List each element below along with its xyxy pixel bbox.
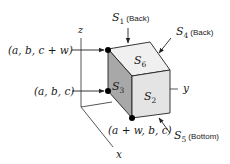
label-top-left-vertex: (a, b, c + w) <box>8 44 73 56</box>
callout-s5: S5(Bottom) <box>174 129 219 144</box>
callout-s4: S4(Back) <box>176 25 214 40</box>
label-bottom-left-vertex: (a, b, c) <box>34 85 74 97</box>
callout-s1: S1(Back) <box>112 11 150 26</box>
vertex-dot-bottom-left <box>105 88 111 94</box>
label-front-bottom-vertex: (a + w, b, c) <box>108 124 172 136</box>
vertex-dot-front-bottom <box>129 115 135 121</box>
cube-diagram: S6 S3 S2 S1(Back) S4(Back) S5(Bottom) (a… <box>0 0 230 164</box>
arrow-s4 <box>159 38 171 53</box>
axis-label-z: z <box>77 24 84 35</box>
axis-label-y: y <box>182 82 190 94</box>
y-axis-base <box>81 102 112 107</box>
axis-label-x: x <box>116 148 122 160</box>
vertex-dot-top-left <box>105 47 111 53</box>
